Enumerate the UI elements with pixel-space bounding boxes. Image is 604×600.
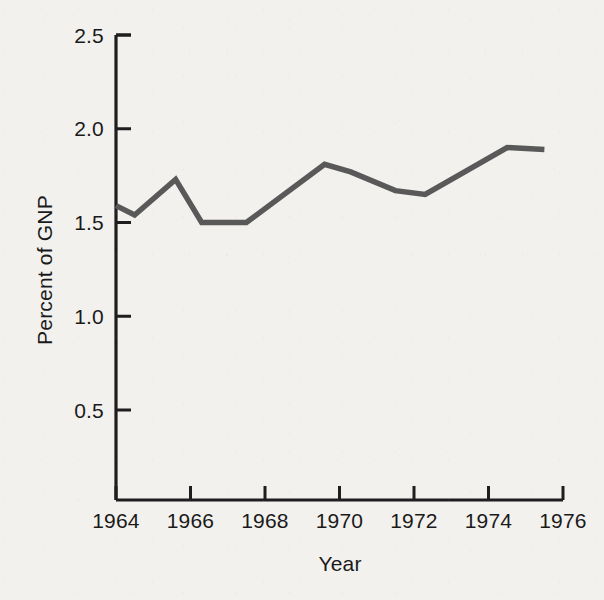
y-tick-label: 2.5	[74, 24, 104, 47]
x-tick-label: 1976	[539, 509, 587, 532]
chart-container: 0.51.01.52.02.5 196419661968197019721974…	[0, 0, 604, 600]
x-tick-label: 1974	[465, 509, 513, 532]
x-tick-label: 1968	[241, 509, 289, 532]
x-axis-tick-labels: 1964196619681970197219741976	[92, 509, 587, 532]
x-axis-title: Year	[318, 552, 361, 575]
y-axis-ticks	[116, 35, 131, 410]
y-tick-label: 2.0	[74, 117, 104, 140]
y-axis-tick-labels: 0.51.01.52.02.5	[74, 24, 104, 422]
data-series-line	[116, 148, 544, 223]
y-tick-label: 1.5	[74, 211, 104, 234]
x-tick-label: 1972	[390, 509, 438, 532]
line-chart: 0.51.01.52.02.5 196419661968197019721974…	[0, 0, 604, 600]
y-tick-label: 0.5	[74, 399, 104, 422]
y-tick-label: 1.0	[74, 305, 104, 328]
x-tick-label: 1964	[92, 509, 140, 532]
x-axis-ticks	[116, 486, 563, 500]
x-tick-label: 1966	[167, 509, 215, 532]
x-tick-label: 1970	[316, 509, 364, 532]
y-axis-title: Percent of GNP	[33, 195, 56, 345]
